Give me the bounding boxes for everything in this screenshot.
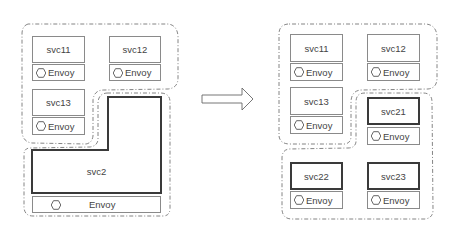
service-box-svc11: svc11 <box>290 34 343 62</box>
envoy-label: Envoy <box>89 199 115 210</box>
envoy-proxy: Envoy <box>290 63 343 81</box>
envoy-proxy: Envoy <box>367 63 420 81</box>
envoy-proxy: Envoy <box>32 117 85 135</box>
service-box-svc21: svc21 <box>367 97 420 125</box>
service-label: svc13 <box>46 97 71 108</box>
hexagon-icon <box>36 68 46 78</box>
envoy-label: Envoy <box>48 121 74 132</box>
envoy-proxy: Envoy <box>32 64 85 81</box>
envoy-label: Envoy <box>48 67 74 78</box>
envoy-label: Envoy <box>306 195 332 206</box>
envoy-proxy: Envoy <box>32 196 161 213</box>
hexagon-icon <box>51 200 61 210</box>
envoy-proxy: Envoy <box>290 191 343 209</box>
envoy-label: Envoy <box>125 67 151 78</box>
service-label: svc21 <box>381 106 406 117</box>
envoy-label: Envoy <box>383 195 409 206</box>
right-arrow-icon <box>202 88 253 110</box>
hexagon-icon <box>294 67 304 77</box>
hexagon-icon <box>294 120 304 130</box>
hexagon-icon <box>371 67 381 77</box>
service-box-svc11: svc11 <box>32 36 85 63</box>
service-box-svc12: svc12 <box>109 36 161 63</box>
service-label: svc12 <box>381 43 406 54</box>
hexagon-icon <box>294 195 304 205</box>
service-box-svc23: svc23 <box>367 162 420 190</box>
envoy-label: Envoy <box>306 67 332 78</box>
envoy-label: Envoy <box>383 67 409 78</box>
service-label: svc12 <box>123 44 148 55</box>
envoy-label: Envoy <box>383 131 409 142</box>
hexagon-icon <box>36 121 46 131</box>
hexagon-icon <box>113 68 123 78</box>
service-label: svc13 <box>304 96 329 107</box>
service-box-svc22: svc22 <box>290 162 343 190</box>
service-box-svc12: svc12 <box>367 34 420 62</box>
service-box-svc2: svc2 <box>32 150 161 193</box>
hexagon-icon <box>371 195 381 205</box>
service-label: svc22 <box>304 171 329 182</box>
service-label: svc23 <box>381 171 406 182</box>
service-label: svc11 <box>46 44 70 55</box>
service-label: svc2 <box>87 166 107 177</box>
envoy-proxy: Envoy <box>367 127 420 145</box>
envoy-proxy: Envoy <box>109 64 161 81</box>
service-label: svc11 <box>304 43 328 54</box>
envoy-label: Envoy <box>306 120 332 131</box>
service-box-svc13: svc13 <box>290 87 343 115</box>
service-box-svc13: svc13 <box>32 89 85 116</box>
envoy-proxy: Envoy <box>367 191 420 209</box>
hexagon-icon <box>371 131 381 141</box>
envoy-proxy: Envoy <box>290 116 343 134</box>
